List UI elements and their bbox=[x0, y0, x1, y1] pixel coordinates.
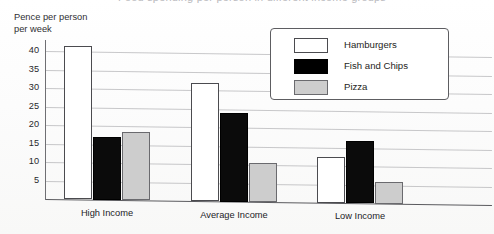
legend-swatch bbox=[294, 38, 328, 53]
y-tick-label: 15 bbox=[19, 138, 39, 148]
legend-label: Pizza bbox=[344, 81, 367, 92]
legend-swatch bbox=[294, 59, 328, 74]
gridline bbox=[45, 125, 492, 132]
legend-label: Hamburgers bbox=[344, 39, 397, 50]
legend-item: Hamburgers bbox=[271, 38, 450, 58]
legend-label: Fish and Chips bbox=[344, 60, 408, 71]
y-tick-label: 5 bbox=[19, 175, 39, 185]
category-label: Average Income bbox=[174, 210, 294, 220]
gridline bbox=[45, 107, 492, 114]
bar bbox=[191, 83, 219, 201]
legend-item: Fish and Chips bbox=[271, 59, 450, 79]
y-tick-label: 25 bbox=[19, 101, 39, 111]
y-tick-label: 40 bbox=[19, 45, 39, 55]
category-label: High Income bbox=[47, 208, 167, 218]
bar-chart-figure: Food spending per person in different in… bbox=[0, 0, 494, 234]
bar bbox=[375, 182, 403, 204]
y-tick-label: 35 bbox=[19, 64, 39, 74]
bar bbox=[220, 113, 248, 202]
bar bbox=[346, 141, 374, 204]
category-label: Low Income bbox=[300, 211, 420, 221]
bar bbox=[64, 46, 92, 199]
y-tick-label: 30 bbox=[19, 82, 39, 92]
bar bbox=[122, 132, 150, 200]
y-axis-line bbox=[45, 40, 46, 200]
legend-swatch bbox=[294, 80, 328, 95]
bar bbox=[93, 137, 121, 200]
legend-item: Pizza bbox=[271, 80, 450, 100]
chart-legend: HamburgersFish and ChipsPizza bbox=[270, 28, 449, 100]
bar bbox=[249, 163, 277, 202]
bar bbox=[317, 157, 345, 203]
y-tick-label: 20 bbox=[19, 119, 39, 129]
y-tick-label: 10 bbox=[19, 156, 39, 166]
